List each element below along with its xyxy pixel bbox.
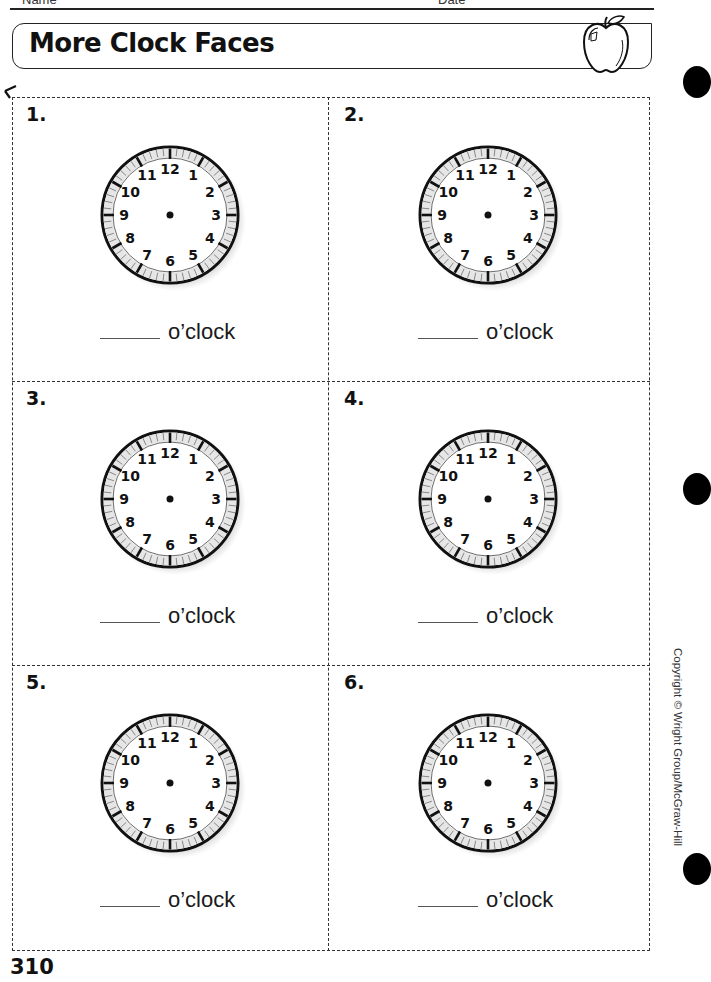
clock-face-icon <box>416 143 566 293</box>
oclock-label: o’clock <box>486 887 553 913</box>
problem-number: 2. <box>344 103 364 125</box>
problem-number: 1. <box>26 103 46 125</box>
answer-blank[interactable] <box>418 338 478 339</box>
clock-face-icon <box>98 427 248 577</box>
page-number: 310 <box>10 955 54 979</box>
answer-blank[interactable] <box>418 622 478 623</box>
oclock-label: o’clock <box>486 319 553 345</box>
answer-blank[interactable] <box>418 906 478 907</box>
header-rule: Name Date <box>10 0 654 10</box>
answer-line: o’clock <box>418 315 553 345</box>
problem-cell-2: 2. o’clock <box>330 97 646 381</box>
clock-face-icon <box>416 427 566 577</box>
oclock-label: o’clock <box>486 603 553 629</box>
clock-face-icon <box>98 143 248 293</box>
answer-line: o’clock <box>100 599 235 629</box>
problem-number: 3. <box>26 387 46 409</box>
answer-blank[interactable] <box>100 622 160 623</box>
problem-cell-1: 1. o’clock <box>12 97 328 381</box>
binder-hole-middle <box>683 473 711 505</box>
binder-hole-bottom <box>683 853 711 885</box>
clock-face-icon <box>416 711 566 861</box>
page-title: More Clock Faces <box>29 28 274 58</box>
problem-cell-5: 5. o’clock <box>12 665 328 949</box>
answer-line: o’clock <box>100 315 235 345</box>
problem-number: 5. <box>26 671 46 693</box>
oclock-label: o’clock <box>168 603 235 629</box>
answer-blank[interactable] <box>100 906 160 907</box>
answer-line: o’clock <box>418 599 553 629</box>
grid-divider-vertical <box>328 97 329 951</box>
binder-hole-top <box>683 66 711 98</box>
problem-number: 6. <box>344 671 364 693</box>
oclock-label: o’clock <box>168 319 235 345</box>
title-banner: More Clock Faces <box>12 23 652 69</box>
date-label: Date <box>438 0 465 7</box>
answer-line: o’clock <box>100 883 235 913</box>
copyright-notice: Copyright © Wright Group/McGraw-Hill <box>672 648 684 846</box>
problem-cell-4: 4. o’clock <box>330 381 646 665</box>
problem-cell-3: 3. o’clock <box>12 381 328 665</box>
answer-line: o’clock <box>418 883 553 913</box>
apple-icon <box>580 14 632 76</box>
problem-number: 4. <box>344 387 364 409</box>
problem-cell-6: 6. o’clock <box>330 665 646 949</box>
answer-blank[interactable] <box>100 338 160 339</box>
oclock-label: o’clock <box>168 887 235 913</box>
clock-face-icon <box>98 711 248 861</box>
name-label: Name <box>22 0 57 7</box>
